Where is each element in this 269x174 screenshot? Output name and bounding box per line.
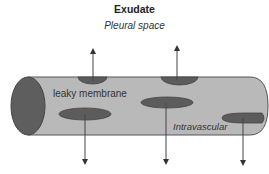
pore-middle bbox=[141, 97, 193, 108]
exudate-diagram: Exudate Pleural space leaky membrane Int… bbox=[0, 0, 269, 174]
vessel-opening bbox=[11, 77, 45, 135]
pleural-space-label: Pleural space bbox=[0, 20, 269, 31]
leaky-membrane-label: leaky membrane bbox=[53, 88, 127, 99]
diagram-title: Exudate bbox=[0, 3, 269, 15]
intravascular-label: Intravascular bbox=[173, 121, 227, 132]
